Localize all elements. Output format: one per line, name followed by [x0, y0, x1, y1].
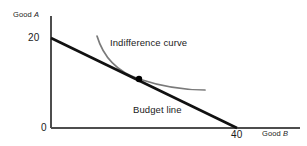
y-axis-label: Good A — [13, 11, 39, 19]
x-axis-label-prefix: Good — [262, 129, 283, 138]
y-axis-label-variable: A — [34, 10, 39, 19]
x-axis-tick-40: 40 — [231, 130, 242, 140]
indifference-curve-label: Indifference curve — [110, 38, 187, 48]
budget-line-label: Budget line — [133, 105, 182, 115]
y-axis-tick-0: 0 — [41, 123, 47, 133]
y-axis-label-prefix: Good — [13, 10, 34, 19]
x-axis-label-variable: B — [283, 129, 288, 138]
x-axis-label: Good B — [262, 130, 288, 138]
y-axis-tick-20: 20 — [28, 33, 39, 43]
tangency-point-marker — [136, 76, 142, 82]
consumer-choice-diagram: Good A Good B 20 0 40 Indifference curve… — [0, 0, 307, 146]
